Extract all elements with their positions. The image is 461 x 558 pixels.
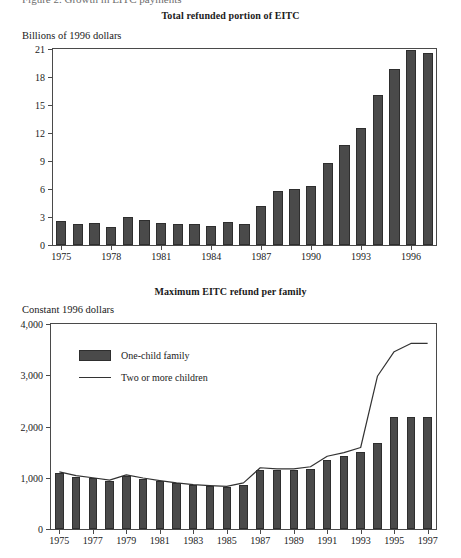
y-axis-tick-label: 12 (35, 128, 45, 139)
y-axis-caption-maximum-refund: Constant 1996 dollars (22, 304, 114, 315)
x-axis-tick (227, 529, 228, 534)
y-axis-tick-label: 4,000 (21, 319, 44, 330)
x-axis-tick (260, 529, 261, 534)
y-axis-tick (46, 478, 51, 479)
bar-one-child-family (172, 483, 180, 529)
bar-total-refunded (89, 223, 99, 245)
bar-one-child-family (306, 469, 314, 529)
bar-one-child-family (55, 473, 63, 529)
bar-total-refunded (156, 223, 166, 245)
y-axis-tick (48, 245, 53, 246)
legend-line-two-or-more (79, 377, 111, 378)
x-axis-tick (160, 529, 161, 534)
x-axis-tick-label: 1987 (250, 535, 270, 546)
y-axis-tick-label: 0 (38, 524, 43, 535)
y-axis-tick-label: 21 (35, 44, 45, 55)
legend-label-two-or-more: Two or more children (121, 372, 208, 383)
bar-total-refunded (306, 186, 316, 245)
y-axis-tick-label: 6 (40, 184, 45, 195)
x-axis-tick (61, 245, 62, 250)
x-axis-tick-label: 1978 (101, 251, 121, 262)
y-axis-tick-label: 15 (35, 100, 45, 111)
bar-total-refunded (189, 224, 199, 245)
bar-total-refunded (373, 95, 383, 245)
bar-total-refunded (323, 163, 333, 245)
x-axis-tick-label: 1975 (49, 535, 69, 546)
plot-area-total-refunded: 0369121518211975197819811984198719901993… (52, 48, 437, 246)
bar-one-child-family (323, 460, 331, 529)
clipped-header-text: Figure 2. Growth in EITC payments (22, 0, 322, 6)
bar-total-refunded (206, 226, 216, 245)
x-axis-tick-label: 1993 (351, 535, 371, 546)
bar-total-refunded (389, 69, 399, 245)
bar-total-refunded (273, 191, 283, 245)
legend-label-one-child: One-child family (121, 350, 190, 361)
x-axis-tick-label: 1996 (401, 251, 421, 262)
x-axis-tick (394, 529, 395, 534)
bar-one-child-family (340, 456, 348, 529)
x-axis-tick (294, 529, 295, 534)
y-axis-tick-label: 0 (40, 240, 45, 251)
y-axis-tick-label: 3,000 (21, 370, 44, 381)
bar-one-child-family (239, 485, 247, 529)
bar-total-refunded (256, 206, 266, 245)
y-axis-tick (46, 324, 51, 325)
bar-one-child-family (223, 487, 231, 529)
x-axis-tick-label: 1993 (351, 251, 371, 262)
bar-one-child-family (290, 470, 298, 529)
legend-item-one-child: One-child family (79, 348, 208, 363)
bar-total-refunded (123, 217, 133, 245)
bar-one-child-family (390, 417, 398, 529)
x-axis-tick-label: 1977 (83, 535, 103, 546)
legend-maximum-refund: One-child family Two or more children (79, 348, 208, 392)
bar-total-refunded (239, 224, 249, 245)
bar-total-refunded (73, 224, 83, 245)
eitc-figure: Figure 2. Growth in EITC payments Total … (0, 0, 461, 558)
bar-total-refunded (106, 227, 116, 245)
x-axis-tick (428, 529, 429, 534)
x-axis-tick-label: 1985 (217, 535, 237, 546)
chart-title-maximum-refund: Maximum EITC refund per family (0, 286, 461, 297)
y-axis-tick-label: 9 (40, 156, 45, 167)
y-axis-tick (48, 105, 53, 106)
x-axis-tick (111, 245, 112, 250)
x-axis-tick-label: 1997 (418, 535, 438, 546)
bar-one-child-family (423, 417, 431, 529)
chart-panel-total-refunded: Total refunded portion of EITC Billions … (0, 8, 461, 286)
bar-one-child-family (72, 477, 80, 529)
y-axis-tick-label: 18 (35, 72, 45, 83)
x-axis-tick (411, 245, 412, 250)
y-axis-tick (46, 375, 51, 376)
x-axis-tick (93, 529, 94, 534)
bar-one-child-family (373, 443, 381, 529)
x-axis-tick (327, 529, 328, 534)
chart-panel-maximum-refund: Maximum EITC refund per family Constant … (0, 286, 461, 558)
y-axis-tick-label: 2,000 (21, 421, 44, 432)
x-axis-tick-label: 1981 (150, 535, 170, 546)
bar-total-refunded (289, 189, 299, 245)
y-axis-tick (46, 529, 51, 530)
bar-total-refunded (423, 53, 433, 245)
bar-one-child-family (273, 470, 281, 529)
x-axis-tick (161, 245, 162, 250)
bar-one-child-family (89, 478, 97, 529)
chart-title-total-refunded: Total refunded portion of EITC (0, 10, 461, 21)
bar-total-refunded (356, 128, 366, 245)
legend-item-two-or-more: Two or more children (79, 370, 208, 385)
x-axis-tick (193, 529, 194, 534)
bar-one-child-family (407, 417, 415, 529)
bar-total-refunded (56, 221, 66, 245)
y-axis-caption-total-refunded: Billions of 1996 dollars (22, 30, 121, 41)
y-axis-tick (48, 189, 53, 190)
x-axis-tick-label: 1984 (201, 251, 221, 262)
y-axis-tick (48, 217, 53, 218)
bar-one-child-family (189, 485, 197, 529)
x-axis-tick-label: 1991 (317, 535, 337, 546)
x-axis-tick (361, 529, 362, 534)
y-axis-tick (48, 77, 53, 78)
bar-total-refunded (223, 222, 233, 245)
bar-one-child-family (256, 470, 264, 529)
legend-swatch-one-child (79, 350, 111, 361)
bar-total-refunded (173, 224, 183, 245)
y-axis-tick (46, 427, 51, 428)
